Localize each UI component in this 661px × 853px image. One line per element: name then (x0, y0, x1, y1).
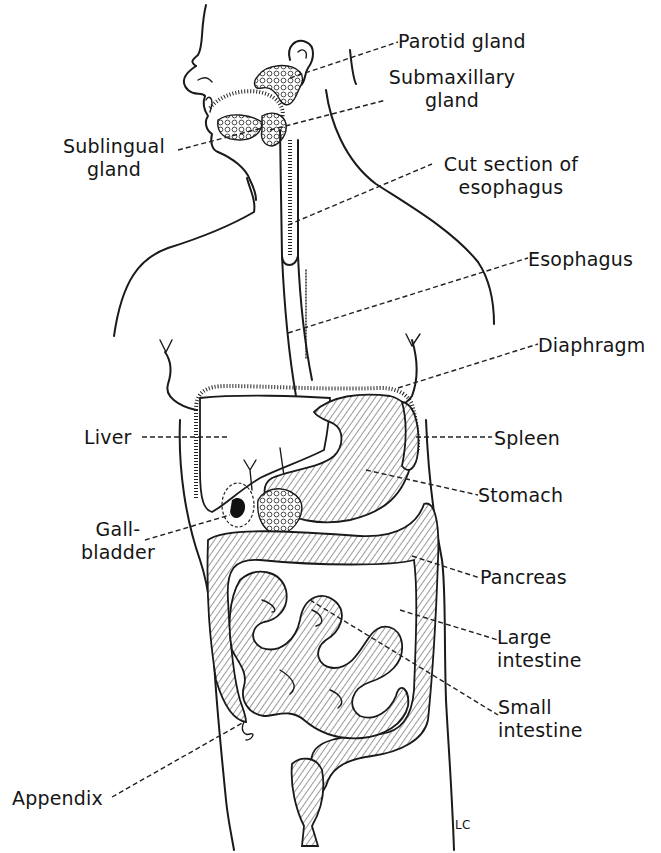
label-cut-section-line1: Cut section of (428, 153, 594, 176)
artist-signature: LC (455, 818, 470, 832)
label-cut-section-line2: esophagus (428, 176, 594, 199)
label-large-intestine: Large intestine (497, 626, 582, 672)
label-cut-section-esophagus: Cut section of esophagus (428, 153, 594, 199)
label-diaphragm: Diaphragm (538, 334, 645, 357)
rectum-shape (292, 759, 324, 846)
esophagus-shape (280, 130, 314, 412)
label-sublingual-line1: Sublingual (58, 135, 170, 158)
sublingual-gland-shape (218, 115, 262, 140)
label-submaxillary-line1: Submaxillary (384, 66, 520, 89)
label-submaxillary-line2: gland (384, 89, 520, 112)
label-stomach: Stomach (478, 484, 563, 507)
label-gallbladder-line2: bladder (72, 541, 164, 564)
label-liver: Liver (84, 426, 132, 449)
label-large-intestine-line1: Large (497, 626, 582, 649)
label-sublingual-line2: gland (58, 158, 170, 181)
label-small-intestine-line2: intestine (498, 719, 583, 742)
small-intestine-shape (230, 572, 409, 739)
label-submaxillary-gland: Submaxillary gland (384, 66, 520, 112)
label-small-intestine: Small intestine (498, 696, 583, 742)
head-outline (184, 5, 313, 200)
label-gallbladder: Gall- bladder (72, 518, 164, 564)
label-spleen: Spleen (494, 427, 560, 450)
label-gallbladder-line1: Gall- (72, 518, 164, 541)
label-pancreas: Pancreas (480, 566, 567, 589)
pancreas-shape (258, 489, 302, 534)
label-sublingual-gland: Sublingual gland (58, 135, 170, 181)
label-large-intestine-line2: intestine (497, 649, 582, 672)
label-small-intestine-line1: Small (498, 696, 583, 719)
label-appendix: Appendix (12, 787, 103, 810)
label-parotid-gland: Parotid gland (398, 30, 526, 53)
appendix-shape (242, 722, 253, 740)
parotid-gland-shape (255, 66, 303, 105)
salivary-glands (206, 66, 303, 146)
label-esophagus: Esophagus (528, 248, 633, 271)
